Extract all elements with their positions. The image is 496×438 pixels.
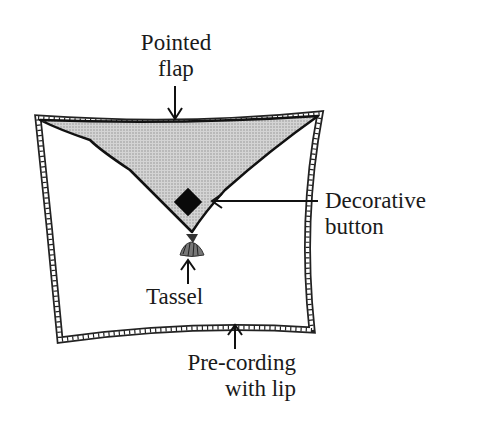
label-decorative-button-line1: Decorative [325,188,426,214]
label-decorative-button-line2: button [325,214,426,240]
label-pre-cording-line1: Pre-cording [148,350,296,376]
label-tassel: Tassel [146,284,203,310]
label-pointed-flap: Pointed flap [120,30,232,82]
label-pre-cording: Pre-cording with lip [148,350,296,402]
label-pre-cording-line2: with lip [148,376,296,402]
label-decorative-button: Decorative button [325,188,426,240]
label-pointed-flap-line2: flap [120,56,232,82]
label-pointed-flap-line1: Pointed [120,30,232,56]
label-tassel-line1: Tassel [146,284,203,310]
